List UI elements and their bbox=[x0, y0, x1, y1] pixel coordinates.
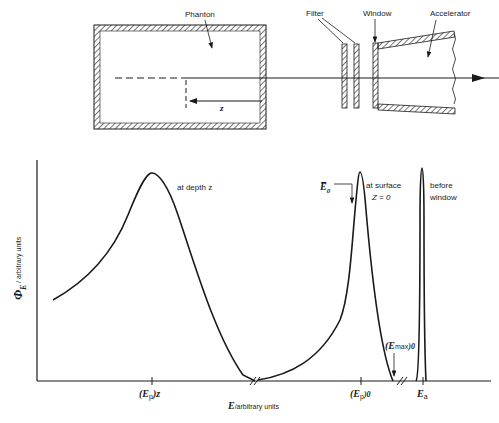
depth-curve bbox=[53, 173, 255, 381]
before-window-label-1: before bbox=[430, 181, 453, 190]
filter-plate-2 bbox=[354, 44, 359, 108]
phantom bbox=[94, 25, 266, 129]
x-axis-label: E/arbitrary units bbox=[227, 400, 280, 411]
window-label: Window bbox=[363, 9, 392, 18]
electron-spectrum-diagram: Phanton z Filter Window Accelerator Φ E … bbox=[0, 0, 499, 423]
depth-curve-label: at depth z bbox=[177, 183, 212, 192]
emax-label: (Emax)0 bbox=[385, 340, 415, 352]
surface-curve bbox=[258, 172, 393, 381]
phantom-label: Phanton bbox=[185, 10, 215, 19]
svg-text:/ arbitrary units: / arbitrary units bbox=[15, 236, 23, 283]
svg-text:E: E bbox=[19, 285, 28, 291]
before-window-label-2: window bbox=[429, 193, 457, 202]
filter-label: Filter bbox=[306, 9, 324, 18]
tick-label-ea: Ea bbox=[416, 388, 428, 400]
tick-label-ep-0: (Ep)0 bbox=[350, 388, 371, 401]
surface-curve-label-1: at surface bbox=[366, 181, 402, 190]
filter-pointer-2 bbox=[322, 18, 355, 43]
y-axis-label: Φ E / arbitrary units bbox=[10, 236, 28, 300]
surface-curve-label-2: Z = 0 bbox=[371, 193, 391, 202]
window-plate bbox=[373, 43, 378, 108]
depth-label: z bbox=[219, 103, 224, 113]
filter-plate-1 bbox=[342, 44, 347, 108]
beam-direction-arrow bbox=[472, 74, 485, 82]
tick-label-ep-z: (Ep)z bbox=[139, 388, 160, 401]
mean-energy-label: E̅0 bbox=[319, 181, 331, 195]
accelerator-label: Accelerator bbox=[430, 9, 471, 18]
before-window-curve bbox=[416, 168, 426, 381]
accelerator bbox=[378, 31, 456, 114]
